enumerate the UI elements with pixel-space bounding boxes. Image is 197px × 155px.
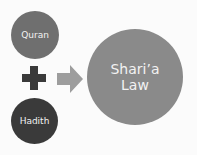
plus-icon — [22, 66, 46, 90]
hadith-label: Hadith — [20, 116, 50, 126]
hadith-circle: Hadith — [11, 98, 58, 144]
quran-label: Quran — [21, 30, 49, 40]
sharia-label-line2: Law — [110, 77, 159, 93]
quran-circle: Quran — [11, 11, 59, 59]
arrow-right-icon — [57, 65, 83, 93]
sharia-law-label: Shari’a Law — [110, 61, 159, 93]
sharia-label-line1: Shari’a — [110, 61, 159, 77]
sharia-law-circle: Shari’a Law — [87, 29, 183, 125]
